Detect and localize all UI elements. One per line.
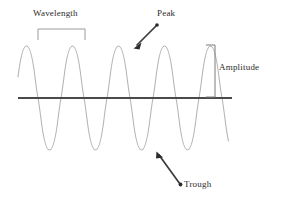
wavelength-bracket (38, 29, 85, 40)
peak-arrow (134, 23, 159, 49)
trough-arrow (156, 152, 182, 187)
trough-label: Trough (184, 179, 211, 189)
peak-label: Peak (157, 8, 175, 18)
wave-diagram-canvas (0, 0, 281, 209)
wavelength-label: Wavelength (33, 8, 78, 18)
amplitude-label: Amplitude (219, 62, 259, 72)
amplitude-bracket (206, 45, 215, 97)
wave-diagram: Wavelength Peak Amplitude Trough (0, 0, 281, 209)
